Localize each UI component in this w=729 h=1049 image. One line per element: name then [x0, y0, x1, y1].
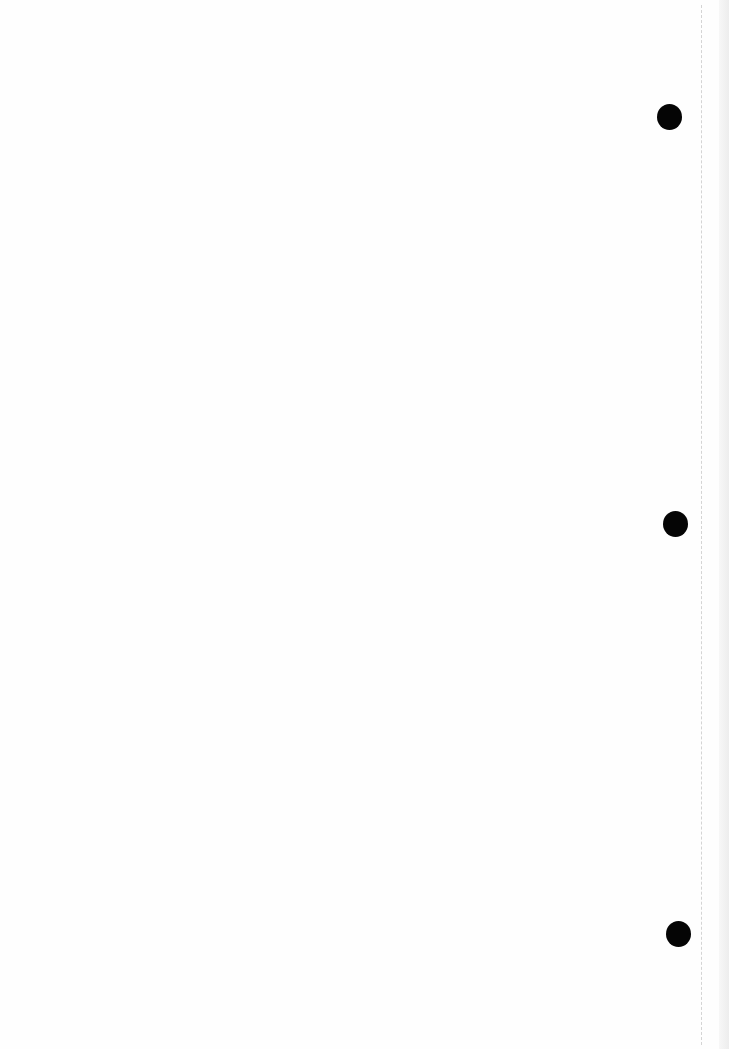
- punch-hole-top: [657, 104, 682, 130]
- page-edge-shadow: [719, 0, 729, 1049]
- punch-hole-middle: [663, 511, 688, 537]
- punch-hole-bottom: [666, 921, 691, 947]
- perforation-line: [701, 5, 702, 1045]
- blank-scanned-page: [0, 0, 729, 1049]
